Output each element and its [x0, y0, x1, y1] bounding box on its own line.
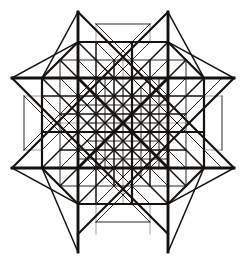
hypercube-projection-diagram: [0, 0, 246, 264]
figure-root: [0, 0, 246, 264]
left-lower-spike: [11, 167, 13, 169]
bottom-right-spike: [167, 251, 169, 253]
top-right-spike: [167, 11, 169, 13]
right-upper-spike: [233, 77, 235, 79]
left-upper-spike: [11, 77, 13, 79]
bottom-left-spike: [77, 251, 79, 253]
right-lower-spike: [233, 167, 235, 169]
top-left-spike: [77, 11, 79, 13]
